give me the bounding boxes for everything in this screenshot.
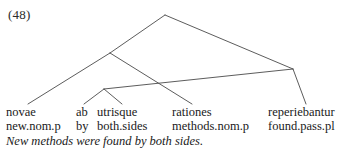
source-word-3: rationes (172, 106, 212, 119)
gloss-word-0: new.nom.p (6, 120, 61, 133)
source-word-1: ab (76, 106, 88, 119)
gloss-word-4: found.pass.pl (268, 120, 335, 133)
linguistic-example-figure: (48) novaeabutrisquerationesreperiebantu… (0, 0, 352, 150)
gloss-word-2: both.sides (97, 120, 147, 133)
source-word-2: utrisque (97, 106, 137, 119)
gloss-word-3: methods.nom.p (172, 120, 249, 133)
interlinear-gloss-block: novaeabutrisquerationesreperiebantur new… (0, 0, 352, 150)
source-word-4: reperiebantur (268, 106, 335, 119)
source-word-0: novae (6, 106, 36, 119)
free-translation-line: New methods were found by both sides. (6, 134, 203, 148)
gloss-word-1: by (76, 120, 89, 133)
